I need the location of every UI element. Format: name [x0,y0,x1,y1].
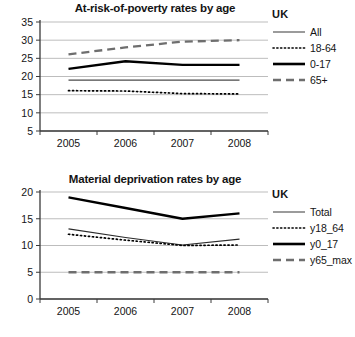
legend-label: y18_64 [310,222,344,234]
legend-title: UK [272,8,336,20]
chart-panel-at-risk-of-poverty: At-risk-of-poverty rates by age 51015202… [0,0,355,170]
data-series-line [69,234,240,245]
y-axis-tick-label: 10 [21,107,33,119]
legend-item: 65+ [272,72,336,88]
legend-swatch-dotted-icon [272,42,306,54]
chart-panel-material-deprivation: Material deprivation rates by age 051015… [0,170,355,337]
x-axis-tick-label: 2008 [228,137,252,149]
legend-label: Total [310,206,332,218]
legend-item: 18-64 [272,40,336,56]
legend-swatch-solid-thin-icon [272,206,306,218]
x-axis-tick-label: 2007 [171,137,195,149]
x-axis-tick-label: 2006 [114,305,138,317]
legend-label: y0_17 [310,238,338,250]
y-axis-tick-label: 30 [21,34,33,46]
legend-swatch-dashed-icon [272,74,306,86]
legend-item: All [272,24,336,40]
legend-swatch-dotted-icon [272,222,306,234]
y-axis-tick-label: 0 [27,293,33,305]
y-axis-tick-label: 5 [27,266,33,278]
legend-swatch-solid-thick-icon [272,58,306,70]
y-axis-tick-label: 25 [21,52,33,64]
legend-label: 65+ [310,74,328,86]
y-axis-tick-label: 15 [21,88,33,100]
legend-item: Total [272,204,352,220]
legend-swatch-solid-thin-icon [272,26,306,38]
legend-item: y0_17 [272,236,352,252]
legend-swatch-dashed-icon [272,254,306,266]
data-series-line [69,91,240,94]
x-axis-tick-label: 2005 [57,305,81,317]
y-axis-tick-label: 15 [21,213,33,225]
chart-legend: UK Total y18_64 y0_17 [272,188,352,268]
x-axis-tick-label: 2005 [57,137,81,149]
legend-item: 0-17 [272,56,336,72]
y-axis-tick-label: 5 [27,125,33,137]
legend-item: y65_max [272,252,352,268]
y-axis-tick-label: 10 [21,239,33,251]
dual-line-chart-figure: At-risk-of-poverty rates by age 51015202… [0,0,355,337]
y-axis-tick-label: 20 [21,186,33,198]
data-series-line [69,61,240,69]
legend-swatch-solid-thick-icon [272,238,306,250]
legend-label: 18-64 [310,42,336,54]
x-axis-tick-label: 2006 [114,137,138,149]
chart-legend: UK All 18-64 0-17 [272,8,336,88]
legend-item: y18_64 [272,220,352,236]
data-series-line [69,40,240,54]
y-axis-tick-label: 35 [21,16,33,28]
legend-label: 0-17 [310,58,331,70]
data-series-line [69,197,240,218]
legend-label: y65_max [310,254,352,266]
x-axis-tick-label: 2007 [171,305,195,317]
x-axis-tick-label: 2008 [228,305,252,317]
legend-title: UK [272,188,352,200]
y-axis-tick-label: 20 [21,70,33,82]
legend-label: All [310,26,321,38]
